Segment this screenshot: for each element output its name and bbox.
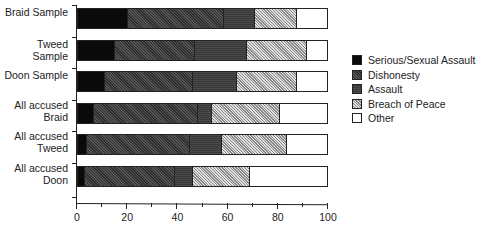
legend-item: Breach of Peace: [352, 97, 475, 112]
stacked-bar: [77, 166, 328, 187]
bar-segment-assault: [198, 104, 213, 123]
legend-item: Assault: [352, 82, 475, 97]
legend-label: Breach of Peace: [368, 98, 446, 110]
bar-segment-other: [297, 9, 327, 28]
bar-segment-dishonesty: [115, 41, 195, 60]
y-tick: [72, 5, 77, 6]
legend-swatch-icon: [352, 84, 362, 94]
bar-segment-breach-of-peace: [212, 104, 279, 123]
bar-segment-other: [287, 135, 327, 154]
bar-segment-breach-of-peace: [237, 72, 297, 91]
x-tick: [277, 203, 278, 209]
bar-segment-dishonesty: [105, 72, 192, 91]
bar-segment-assault: [193, 72, 238, 91]
bar-segment-dishonesty: [85, 167, 175, 186]
x-tick: [202, 203, 203, 207]
legend-item: Serious/Sexual Assault: [352, 53, 475, 68]
y-tick: [72, 37, 77, 38]
legend-swatch-icon: [352, 113, 362, 123]
x-tick: [126, 203, 127, 209]
y-tick: [72, 68, 77, 69]
legend-swatch-icon: [352, 70, 362, 80]
legend-item: Other: [352, 111, 475, 126]
bar-segment-other: [307, 41, 327, 60]
legend-swatch-icon: [352, 55, 362, 65]
legend-swatch-icon: [352, 99, 362, 109]
legend-label: Serious/Sexual Assault: [368, 54, 475, 66]
bar-segment-breach-of-peace: [247, 41, 307, 60]
bar-segment-breach-of-peace: [222, 135, 287, 154]
bar-segment-assault: [190, 135, 222, 154]
x-tick: [76, 203, 77, 209]
bar-segment-serious-sexual-assault: [78, 167, 85, 186]
bar-segment-dishonesty: [94, 104, 197, 123]
bar-segment-serious-sexual-assault: [78, 72, 105, 91]
bar-segment-assault: [224, 9, 255, 28]
bar-segment-breach-of-peace: [255, 9, 297, 28]
x-tick: [302, 203, 303, 207]
stacked-bar: [77, 103, 328, 124]
bar-segment-serious-sexual-assault: [78, 135, 87, 154]
category-label: Doon Sample: [4, 69, 68, 81]
stacked-bar: [77, 134, 328, 155]
bar-segment-dishonesty: [128, 9, 224, 28]
x-tick: [252, 203, 253, 207]
x-tick: [327, 203, 328, 209]
legend: Serious/Sexual AssaultDishonestyAssaultB…: [352, 53, 475, 126]
x-tick-label: 20: [121, 211, 133, 223]
category-label: Braid Sample: [5, 6, 68, 18]
stacked-bar: [77, 8, 328, 29]
bar-segment-other: [297, 72, 327, 91]
stacked-bar-chart: Braid SampleTweed SampleDoon SampleAll a…: [0, 0, 479, 235]
category-label: All accused Braid: [14, 99, 68, 123]
legend-label: Other: [368, 112, 394, 124]
x-tick: [176, 203, 177, 209]
x-tick-label: 80: [272, 211, 284, 223]
stacked-bar: [77, 40, 328, 61]
bar-segment-dishonesty: [87, 135, 190, 154]
category-label: All accused Tweed: [14, 130, 68, 154]
y-tick: [72, 131, 77, 132]
stacked-bar: [77, 71, 328, 92]
x-tick-label: 40: [172, 211, 184, 223]
x-tick: [101, 203, 102, 207]
bar-segment-serious-sexual-assault: [78, 41, 115, 60]
x-tick-label: 100: [319, 211, 337, 223]
category-label: Tweed Sample: [0, 38, 68, 62]
y-tick: [72, 100, 77, 101]
bar-segment-other: [280, 104, 327, 123]
bar-segment-other: [250, 167, 327, 186]
x-tick-label: 60: [222, 211, 234, 223]
legend-label: Assault: [368, 83, 402, 95]
category-label: All accused Doon: [14, 162, 68, 186]
x-tick: [227, 203, 228, 209]
bar-segment-assault: [195, 41, 247, 60]
x-tick-label: 0: [74, 211, 80, 223]
bar-segment-assault: [175, 167, 192, 186]
y-tick: [72, 197, 77, 198]
y-tick: [72, 163, 77, 164]
legend-item: Dishonesty: [352, 68, 475, 83]
bar-segment-serious-sexual-assault: [78, 9, 128, 28]
legend-label: Dishonesty: [368, 69, 420, 81]
bar-segment-serious-sexual-assault: [78, 104, 94, 123]
bar-segment-breach-of-peace: [193, 167, 250, 186]
x-tick: [151, 203, 152, 207]
